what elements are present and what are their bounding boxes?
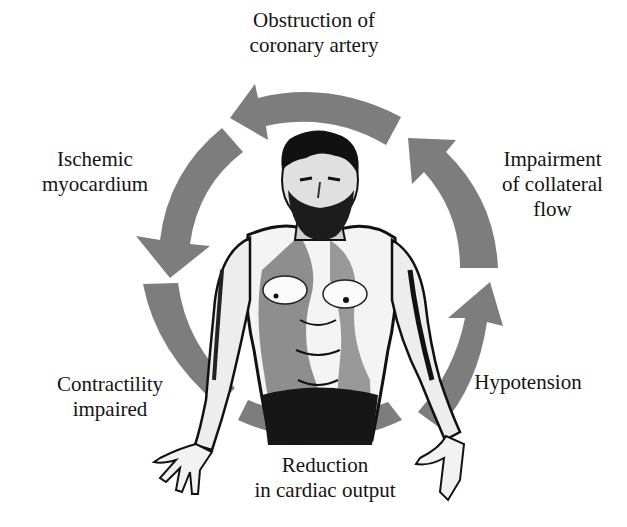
node-ischemic: Ischemic myocardium — [30, 147, 160, 197]
node-impairment: Impairment of collateral flow — [480, 147, 625, 222]
node-ischemic-line1: Ischemic — [30, 147, 160, 172]
node-contractility-line2: impaired — [40, 397, 180, 422]
node-reduction-line2: in cardiac output — [235, 478, 415, 503]
node-contractility: Contractility impaired — [40, 372, 180, 422]
vicious-cycle-diagram: Obstruction of coronary artery Ischemic … — [0, 0, 627, 527]
node-obstruction-line1: Obstruction of — [228, 8, 400, 33]
node-hypotension-line1: Hypotension — [458, 370, 598, 395]
node-obstruction-line2: coronary artery — [228, 33, 400, 58]
node-reduction: Reduction in cardiac output — [235, 453, 415, 503]
figure-right-hand — [416, 436, 464, 500]
node-impairment-line3: flow — [480, 197, 625, 222]
node-reduction-line1: Reduction — [235, 453, 415, 478]
node-hypotension: Hypotension — [458, 370, 598, 395]
cycle-arrows — [0, 0, 627, 527]
node-impairment-line1: Impairment — [480, 147, 625, 172]
node-obstruction: Obstruction of coronary artery — [228, 8, 400, 58]
node-impairment-line2: of collateral — [480, 172, 625, 197]
node-ischemic-line2: myocardium — [30, 172, 160, 197]
figure-left-hand — [154, 444, 212, 494]
node-contractility-line1: Contractility — [40, 372, 180, 397]
